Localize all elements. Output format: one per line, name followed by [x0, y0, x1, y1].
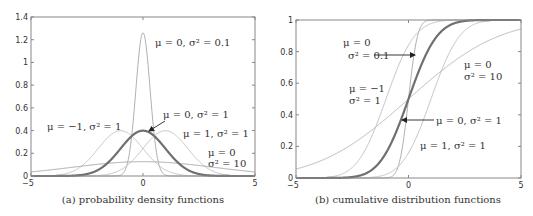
y-tick-label: 1.4 [15, 13, 28, 22]
x-tick-label: −5 [287, 181, 299, 190]
x-tick-label: 5 [518, 181, 523, 190]
annotation-arrow [149, 121, 165, 131]
y-tick-label: 0.8 [280, 48, 293, 57]
y-tick-label: 0.6 [280, 79, 293, 88]
curve-annotation: μ = −1 [349, 83, 385, 94]
cdf-axis-ticks: 00.20.40.60.81−505 [280, 16, 523, 190]
curve-annotation: μ = −1, σ² = 1 [47, 121, 121, 132]
y-tick-label: 1.2 [15, 36, 28, 45]
x-tick-label: −5 [22, 179, 34, 188]
curve-annotation: μ = 0 [343, 37, 371, 48]
curve--0-1 [296, 20, 521, 178]
pdf-chart: 00.20.40.60.811.21.4−505 μ = 0, σ² = 0.1… [15, 13, 257, 205]
x-tick-label: 5 [252, 179, 257, 188]
x-tick-label: 0 [140, 179, 145, 188]
curve-annotation: μ = 0 [208, 147, 236, 158]
y-tick-label: 0.8 [15, 81, 28, 90]
curve-annotation: μ = 0, σ² = 0.1 [155, 37, 230, 48]
y-tick-label: 1 [288, 16, 293, 25]
y-tick-label: 0.4 [15, 127, 28, 136]
curve-annotation: μ = 1, σ² = 1 [183, 128, 249, 139]
y-tick-label: 0.4 [280, 111, 293, 120]
curve-annotation: μ = 0, σ² = 1 [163, 109, 229, 120]
pdf-caption: (a) probability density functions [62, 194, 224, 205]
x-tick-label: 0 [406, 181, 411, 190]
curve-annotation: μ = 0 [464, 59, 492, 70]
curve-annotation: μ = 0, σ² = 1 [436, 115, 502, 126]
y-tick-label: 0.2 [280, 142, 293, 151]
y-tick-label: 1 [23, 58, 28, 67]
curve-annotation: σ² = 10 [208, 158, 246, 169]
figure: 00.20.40.60.811.21.4−505 μ = 0, σ² = 0.1… [0, 0, 533, 216]
cdf-caption: (b) cumulative distribution functions [315, 194, 501, 205]
curve-annotation: σ² = 0.1 [348, 50, 389, 61]
curve-annotation: σ² = 1 [349, 95, 381, 106]
y-tick-label: 0.2 [15, 149, 28, 158]
pdf-annotations: μ = 0, σ² = 0.1μ = 0, σ² = 1μ = −1, σ² =… [47, 37, 249, 169]
cdf-chart: 00.20.40.60.81−505 μ = 0σ² = 0.1μ = −1σ²… [280, 16, 523, 205]
curve-annotation: σ² = 10 [464, 71, 502, 82]
y-tick-label: 0.6 [15, 104, 28, 113]
curve-annotation: μ = 1, σ² = 1 [420, 140, 486, 151]
cdf-curves [296, 20, 521, 178]
